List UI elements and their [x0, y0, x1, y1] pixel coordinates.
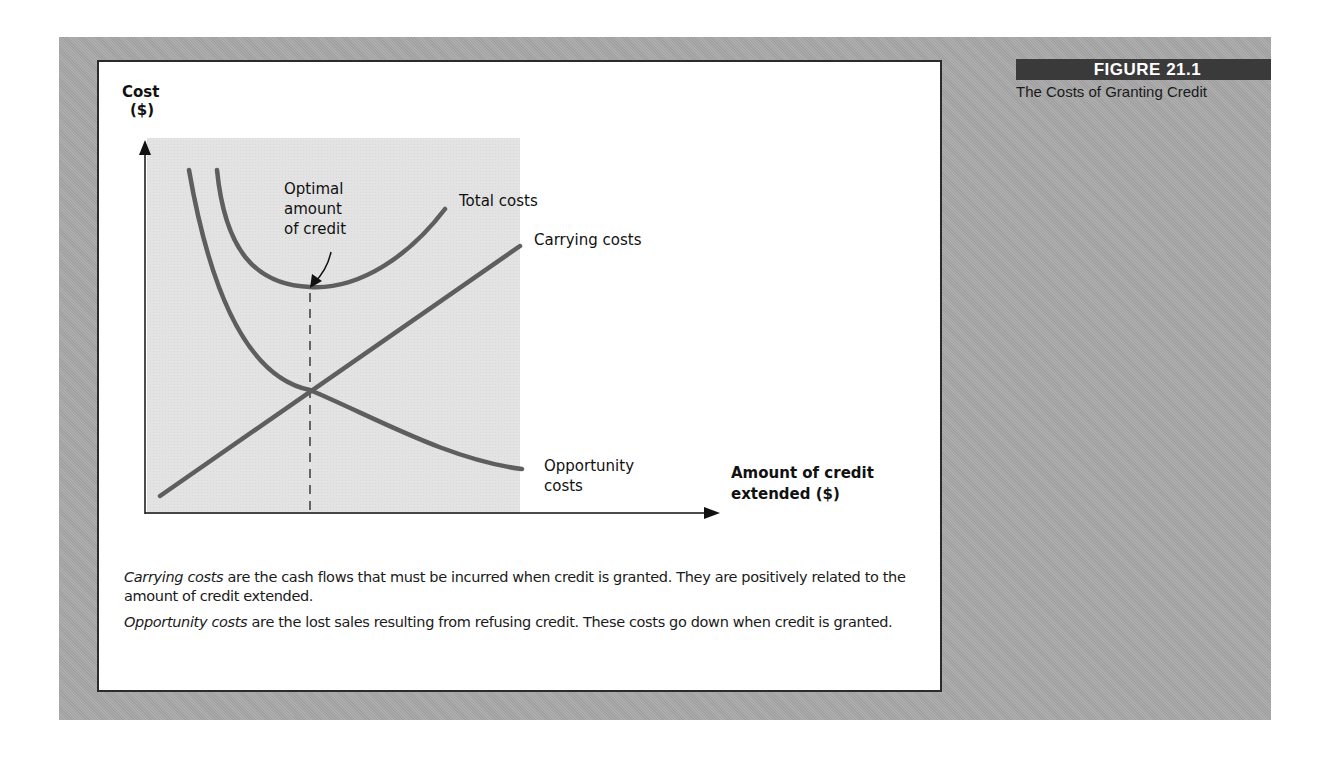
optimal-annotation: Optimal amount of credit: [284, 180, 348, 238]
caption-opportunity: Opportunity costs are the lost sales res…: [124, 613, 924, 632]
opportunity-costs-label: Opportunity costs: [544, 457, 639, 495]
caption-carrying: Carrying costs are the cash flows that m…: [124, 568, 924, 606]
caption-text-carrying: are the cash flows that must be incurred…: [124, 569, 906, 604]
x-axis-label: Amount of credit extended ($): [731, 464, 879, 503]
y-axis-label: Cost ($): [122, 83, 165, 119]
chart: Cost ($) Amount of credit extended ($) O…: [0, 0, 1332, 759]
caption-term-carrying: Carrying costs: [124, 569, 223, 585]
x-axis-arrow-icon: [704, 507, 720, 519]
total-costs-label: Total costs: [458, 192, 538, 210]
caption-text-opportunity: are the lost sales resulting from refusi…: [247, 614, 892, 630]
figure-caption: Carrying costs are the cash flows that m…: [124, 568, 924, 639]
caption-term-opportunity: Opportunity costs: [124, 614, 247, 630]
carrying-costs-label: Carrying costs: [534, 231, 642, 249]
